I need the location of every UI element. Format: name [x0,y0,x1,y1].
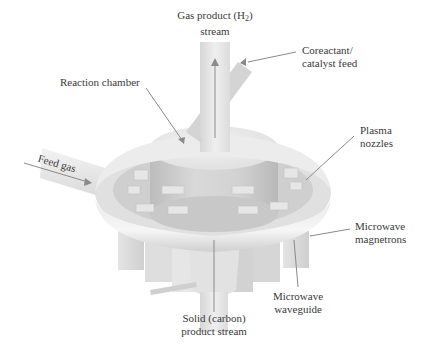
label-waveguide-line2: waveguide [266,303,330,316]
label-magnetrons-line1: Microwave [355,220,406,233]
label-coreactant: Coreactant/ catalyst feed [302,44,357,70]
label-coreactant-line2: catalyst feed [302,57,357,70]
label-coreactant-line1: Coreactant/ [302,44,357,57]
label-gas-product-text: Gas product (H [177,9,245,21]
label-plasma-nozzles: Plasma nozzles [360,124,393,150]
label-gas-product-line2: stream [150,25,280,38]
label-microwave-magnetrons: Microwave magnetrons [355,220,406,246]
label-solid-product-line2: product stream [164,325,264,338]
label-solid-product: Solid (carbon) product stream [164,312,264,338]
label-reaction-chamber: Reaction chamber [60,76,140,89]
label-plasma-nozzles-line2: nozzles [360,137,393,150]
label-microwave-waveguide: Microwave waveguide [266,290,330,316]
label-reaction-chamber-text: Reaction chamber [60,76,140,89]
label-solid-product-line1: Solid (carbon) [164,312,264,325]
label-gas-product: Gas product (H2) stream [150,9,280,38]
label-gas-product-close: ) [249,9,253,21]
label-magnetrons-line2: magnetrons [355,233,406,246]
label-waveguide-line1: Microwave [266,290,330,303]
label-plasma-nozzles-line1: Plasma [360,124,393,137]
reactor-diagram [0,0,425,349]
